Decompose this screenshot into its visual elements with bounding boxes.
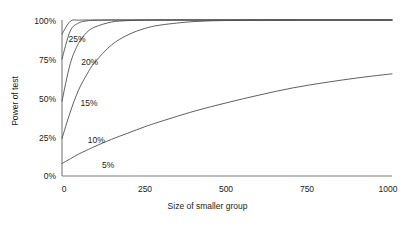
y-tick-label: 50% — [18, 94, 56, 104]
series-line-15pct — [62, 20, 392, 101]
x-tick-label: 0 — [44, 184, 84, 194]
y-tick-label: 75% — [18, 55, 56, 65]
series-label-20pct: 20% — [81, 57, 98, 67]
series-line-20pct — [62, 20, 392, 59]
series-lines — [62, 20, 392, 164]
series-label-15pct: 15% — [81, 98, 98, 108]
x-tick-label: 1000 — [368, 184, 408, 194]
x-tick-label: 500 — [206, 184, 246, 194]
y-axis-title: Power of test — [10, 56, 20, 146]
x-tick-label: 750 — [287, 184, 327, 194]
x-axis-title: Size of smaller group — [0, 201, 415, 211]
series-label-10pct: 10% — [88, 135, 105, 145]
axes — [62, 20, 392, 176]
y-tick-label: 25% — [18, 133, 56, 143]
series-line-5pct — [62, 74, 392, 164]
series-line-10pct — [62, 20, 392, 139]
x-tick-label: 250 — [125, 184, 165, 194]
y-tick-label: 0% — [18, 171, 56, 181]
series-label-5pct: 5% — [102, 160, 114, 170]
power-curve-chart: 100% 75% 50% 25% 0% 0 250 500 750 1000 P… — [0, 0, 415, 226]
series-label-25pct: 25% — [69, 34, 86, 44]
y-tick-label: 100% — [18, 16, 56, 26]
